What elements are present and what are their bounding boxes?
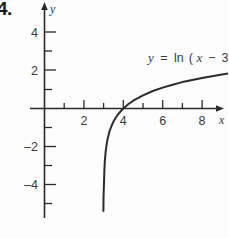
x-tick-label: 8 — [199, 114, 206, 128]
x-tick-label: 6 — [159, 114, 166, 128]
curve-equation-label: y = ln ( x − 3 ) — [146, 50, 228, 65]
axes-group — [30, 2, 224, 218]
x-tick-labels: 2 4 6 8 — [80, 114, 205, 128]
equation-equals: = — [160, 51, 167, 65]
y-tick-label: 2 — [31, 64, 38, 78]
equation-function: ln — [174, 51, 184, 65]
graph-figure: 2 4 6 8 4 2 –2 –4 y x y = ln ( x − 3 — [0, 0, 228, 238]
y-axis-ticks — [45, 32, 57, 204]
x-axis-arrowhead — [216, 105, 224, 112]
x-axis-label: x — [218, 113, 225, 127]
y-tick-label: –2 — [24, 140, 38, 154]
equation-open-paren: ( — [189, 51, 194, 65]
y-axis-arrowhead — [41, 2, 48, 10]
equation-variable: x — [195, 50, 202, 65]
equation-minus: − — [208, 51, 215, 65]
equation-constant: 3 — [222, 51, 229, 65]
figure-page: 4. — [0, 0, 228, 238]
x-tick-label: 4 — [120, 114, 127, 128]
function-curve-asymptote-tail — [103, 183, 104, 211]
x-tick-label: 2 — [80, 114, 87, 128]
y-tick-label: 4 — [31, 26, 38, 40]
y-tick-label: –4 — [24, 178, 38, 192]
equation-lhs: y — [146, 50, 154, 65]
y-axis-label: y — [49, 2, 56, 16]
function-curve — [104, 73, 228, 183]
